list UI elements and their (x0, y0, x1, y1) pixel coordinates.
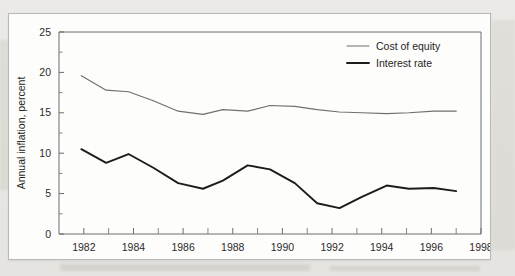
x-tick-label: 1998 (469, 241, 490, 253)
series-line-2 (81, 149, 456, 208)
x-tick-label: 1984 (122, 241, 146, 253)
y-axis-title-text: Annual inflation, percent (15, 77, 27, 190)
y-tick-label: 15 (39, 106, 51, 118)
x-tick-label: 1988 (221, 241, 245, 253)
x-axis-tick-labels: 198219841986198819901992199419961998 (72, 241, 490, 253)
series-line-1 (81, 76, 456, 115)
x-tick-label: 1982 (72, 241, 96, 253)
chart-plot-area: 0510152025 19821984198619881990199219941… (9, 14, 490, 259)
line-chart: 0510152025 19821984198619881990199219941… (9, 14, 490, 259)
y-tick-label: 20 (39, 66, 51, 78)
legend-label-2: Interest rate (376, 57, 432, 69)
chart-legend: Cost of equityInterest rate (347, 40, 441, 69)
scan-artifact-right (492, 20, 515, 250)
x-tick-label: 1996 (420, 241, 444, 253)
x-tick-label: 1994 (370, 241, 394, 253)
chart-series-group (81, 76, 456, 209)
scan-artifact-bottom-right (330, 266, 480, 271)
y-tick-label: 0 (45, 228, 51, 240)
x-tick-label: 1986 (171, 241, 195, 253)
x-tick-label: 1990 (271, 241, 295, 253)
y-tick-label: 25 (39, 26, 51, 38)
scan-artifact-bottom-left (60, 264, 310, 271)
y-tick-label: 10 (39, 147, 51, 159)
y-axis-tick-labels: 0510152025 (39, 26, 51, 240)
legend-label-1: Cost of equity (376, 40, 441, 52)
x-tick-label: 1992 (320, 241, 344, 253)
scan-artifact-left (0, 40, 8, 190)
y-axis-title: Annual inflation, percent (15, 77, 27, 190)
page-background: 0510152025 19821984198619881990199219941… (0, 0, 515, 276)
y-tick-label: 5 (45, 187, 51, 199)
figure-panel: 0510152025 19821984198619881990199219941… (8, 13, 491, 260)
